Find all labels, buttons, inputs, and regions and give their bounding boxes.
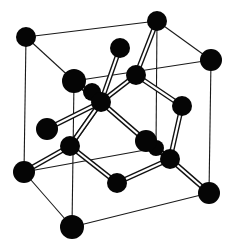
atom-corner: [16, 27, 36, 47]
cube-edge: [209, 60, 211, 193]
cube-edge: [72, 193, 209, 227]
cube-edge: [24, 37, 26, 172]
atom-face-center: [172, 96, 192, 116]
atom-interior: [91, 92, 111, 112]
atom-corner: [198, 182, 220, 204]
cube-edge: [26, 21, 157, 37]
atom-interior: [160, 149, 180, 169]
atom-corner: [147, 11, 167, 31]
atom-corner: [13, 161, 35, 183]
atom-interior: [126, 65, 146, 85]
atom-face-center: [36, 118, 58, 140]
atom-interior: [60, 136, 80, 156]
crystal-lattice-svg: Diamond cubic crystal structure (unit ce…: [0, 0, 233, 247]
atom-corner: [200, 49, 222, 71]
cube-edge: [156, 21, 157, 148]
atom-corner: [62, 69, 86, 93]
diamond-cubic-diagram: Diamond cubic crystal structure (unit ce…: [0, 0, 233, 247]
atom-face-center: [135, 130, 157, 152]
atom-corner: [60, 215, 84, 239]
atom-face-center: [107, 173, 127, 193]
atom-face-center: [110, 38, 130, 58]
